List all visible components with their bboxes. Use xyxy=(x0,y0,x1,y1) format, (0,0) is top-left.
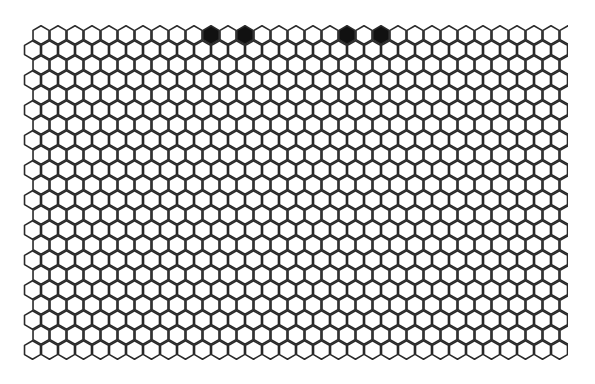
hex-cell[interactable] xyxy=(178,281,194,299)
hex-cell[interactable] xyxy=(518,341,534,359)
hex-cell[interactable] xyxy=(416,221,432,239)
hex-cell[interactable] xyxy=(433,131,449,149)
hex-cell[interactable] xyxy=(229,191,245,209)
hex-cell[interactable] xyxy=(144,221,160,239)
hex-cell[interactable] xyxy=(399,101,415,119)
hex-cell[interactable] xyxy=(475,266,491,284)
hex-cell[interactable] xyxy=(322,86,338,104)
hex-cell[interactable] xyxy=(161,101,177,119)
hex-cell[interactable] xyxy=(339,266,355,284)
hex-cell[interactable] xyxy=(220,86,236,104)
hex-cell[interactable] xyxy=(195,221,211,239)
hex-cell[interactable] xyxy=(42,251,58,269)
hex-cell[interactable] xyxy=(484,281,500,299)
hex-cell[interactable] xyxy=(195,41,211,59)
hex-cell[interactable] xyxy=(314,101,330,119)
hex-cell[interactable] xyxy=(169,206,185,224)
hex-cell[interactable] xyxy=(118,326,134,344)
hex-cell[interactable] xyxy=(441,206,457,224)
hex-cell[interactable] xyxy=(25,131,41,149)
hex-cell[interactable] xyxy=(356,326,372,344)
hex-cell[interactable] xyxy=(416,281,432,299)
hex-cell[interactable] xyxy=(305,26,321,44)
hex-cell[interactable] xyxy=(110,221,126,239)
hex-cell[interactable] xyxy=(484,161,500,179)
hex-grid[interactable] xyxy=(0,0,568,384)
hex-cell[interactable] xyxy=(271,176,287,194)
hex-cell[interactable] xyxy=(297,161,313,179)
hex-cell-filled[interactable] xyxy=(339,26,355,44)
hex-cell[interactable] xyxy=(492,326,508,344)
hex-cell[interactable] xyxy=(271,56,287,74)
hex-cell[interactable] xyxy=(424,266,440,284)
hex-cell[interactable] xyxy=(458,176,474,194)
hex-cell[interactable] xyxy=(280,251,296,269)
hex-cell[interactable] xyxy=(237,206,253,224)
hex-cell[interactable] xyxy=(84,116,100,134)
hex-cell[interactable] xyxy=(339,296,355,314)
hex-cell[interactable] xyxy=(416,101,432,119)
hex-cell[interactable] xyxy=(127,161,143,179)
hex-cell[interactable] xyxy=(297,191,313,209)
hex-cell[interactable] xyxy=(127,101,143,119)
hex-cell[interactable] xyxy=(399,281,415,299)
hex-cell[interactable] xyxy=(220,26,236,44)
hex-cell[interactable] xyxy=(509,326,525,344)
hex-cell[interactable] xyxy=(390,26,406,44)
hex-cell[interactable] xyxy=(127,221,143,239)
hex-cell-filled[interactable] xyxy=(373,26,389,44)
hex-cell[interactable] xyxy=(135,266,151,284)
hex-cell[interactable] xyxy=(195,71,211,89)
hex-cell[interactable] xyxy=(263,131,279,149)
hex-cell[interactable] xyxy=(212,221,228,239)
hex-cell[interactable] xyxy=(195,131,211,149)
hex-cell[interactable] xyxy=(373,56,389,74)
hex-cell[interactable] xyxy=(492,116,508,134)
hex-cell[interactable] xyxy=(331,221,347,239)
hex-cell[interactable] xyxy=(467,221,483,239)
hex-cell[interactable] xyxy=(25,311,41,329)
hex-cell[interactable] xyxy=(322,266,338,284)
hex-cell[interactable] xyxy=(178,41,194,59)
hex-cell[interactable] xyxy=(33,56,49,74)
hex-cell[interactable] xyxy=(509,176,525,194)
hex-cell[interactable] xyxy=(203,266,219,284)
hex-cell[interactable] xyxy=(390,116,406,134)
hex-cell[interactable] xyxy=(118,26,134,44)
hex-cell[interactable] xyxy=(382,341,398,359)
hex-cell[interactable] xyxy=(220,236,236,254)
hex-cell[interactable] xyxy=(501,251,517,269)
hex-cell[interactable] xyxy=(237,146,253,164)
hex-cell[interactable] xyxy=(144,191,160,209)
hex-cell[interactable] xyxy=(101,236,117,254)
hex-cell[interactable] xyxy=(450,41,466,59)
hex-cell[interactable] xyxy=(212,341,228,359)
hex-cell[interactable] xyxy=(314,341,330,359)
hex-cell[interactable] xyxy=(229,131,245,149)
hex-cell[interactable] xyxy=(101,176,117,194)
hex-cell[interactable] xyxy=(195,281,211,299)
hex-cell[interactable] xyxy=(229,221,245,239)
hex-cell[interactable] xyxy=(144,341,160,359)
hex-cell[interactable] xyxy=(314,131,330,149)
hex-cell[interactable] xyxy=(263,71,279,89)
hex-cell[interactable] xyxy=(203,236,219,254)
hex-cell[interactable] xyxy=(450,71,466,89)
hex-cell[interactable] xyxy=(220,326,236,344)
hex-cell[interactable] xyxy=(314,191,330,209)
hex-cell[interactable] xyxy=(322,26,338,44)
hex-cell[interactable] xyxy=(509,236,525,254)
hex-cell[interactable] xyxy=(424,326,440,344)
hex-cell[interactable] xyxy=(314,41,330,59)
hex-cell[interactable] xyxy=(373,236,389,254)
hex-cell[interactable] xyxy=(254,296,270,314)
hex-cell[interactable] xyxy=(237,236,253,254)
hex-cell[interactable] xyxy=(526,146,542,164)
hex-cell[interactable] xyxy=(382,161,398,179)
hex-cell[interactable] xyxy=(195,311,211,329)
hex-cell[interactable] xyxy=(161,131,177,149)
hex-cell[interactable] xyxy=(288,116,304,134)
hex-cell[interactable] xyxy=(492,86,508,104)
hex-cell[interactable] xyxy=(390,56,406,74)
hex-cell[interactable] xyxy=(416,41,432,59)
